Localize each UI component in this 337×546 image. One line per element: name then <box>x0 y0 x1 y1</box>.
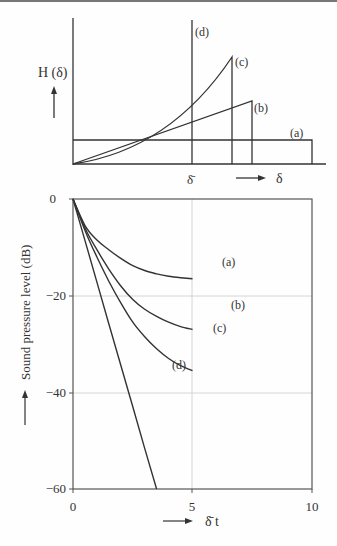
label-c: (c) <box>213 321 226 335</box>
xtick-5: 5 <box>189 499 196 514</box>
top-x-label: δ <box>276 171 283 186</box>
arrow-up-icon <box>51 86 57 94</box>
bottom-x-label: δ̄ t <box>205 514 219 529</box>
label-a: (a) <box>222 255 235 269</box>
mean-delta-label: δ̄ <box>187 172 195 187</box>
label-d-top: (d) <box>195 25 209 39</box>
figure-svg: H (δ) (d) (c) (b) (a) δ̄ δ <box>0 0 337 546</box>
label-c-top: (c) <box>235 55 248 69</box>
bottom-y-label: Sound pressure level (dB) <box>18 245 33 380</box>
curve-b <box>73 199 193 330</box>
curve-c <box>73 199 193 371</box>
curve-c-dist <box>73 57 232 164</box>
ytick-0: 0 <box>50 191 57 206</box>
top-plot <box>54 18 326 178</box>
label-a-top: (a) <box>290 126 303 140</box>
figure: H (δ) (d) (c) (b) (a) δ̄ δ <box>0 0 337 546</box>
bottom-plot <box>69 199 312 493</box>
curve-d <box>73 199 157 489</box>
plot-frame <box>73 199 312 489</box>
arrow-right-icon <box>258 175 266 181</box>
label-b: (b) <box>231 298 245 312</box>
top-y-label: H (δ) <box>38 65 68 81</box>
arrow-up-icon-bottom <box>22 390 28 398</box>
ytick-40: −40 <box>46 385 66 400</box>
curve-b-dist <box>73 101 252 164</box>
xtick-10: 10 <box>306 499 319 514</box>
label-d: (d) <box>172 358 186 372</box>
ytick-60: −60 <box>46 481 66 496</box>
ytick-20: −20 <box>46 288 66 303</box>
arrow-right-icon-bottom <box>185 518 193 524</box>
xtick-0: 0 <box>70 499 77 514</box>
label-b-top: (b) <box>254 101 268 115</box>
